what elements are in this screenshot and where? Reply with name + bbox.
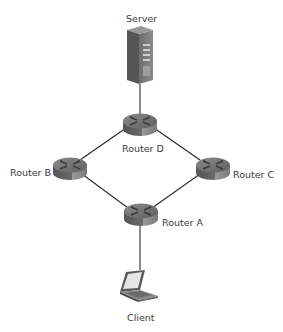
- network-diagram: [0, 0, 283, 332]
- edge-routerD-routerB: [80, 128, 126, 160]
- connections: [80, 84, 200, 270]
- router-b-label: Router B: [10, 167, 51, 178]
- server-tower-icon: [127, 26, 153, 84]
- client-label: Client: [127, 312, 155, 323]
- router-b-icon: [53, 158, 87, 181]
- laptop-icon: [120, 270, 158, 302]
- edge-routerB-routerA: [82, 174, 128, 208]
- router-d-label: Router D: [122, 143, 164, 154]
- router-a-icon: [124, 204, 158, 227]
- router-d-icon: [123, 114, 157, 137]
- server-label: Server: [126, 13, 157, 24]
- router-c-label: Router C: [233, 169, 274, 180]
- edge-routerC-routerA: [152, 174, 200, 208]
- router-a-label: Router A: [162, 217, 203, 228]
- router-c-icon: [196, 158, 230, 181]
